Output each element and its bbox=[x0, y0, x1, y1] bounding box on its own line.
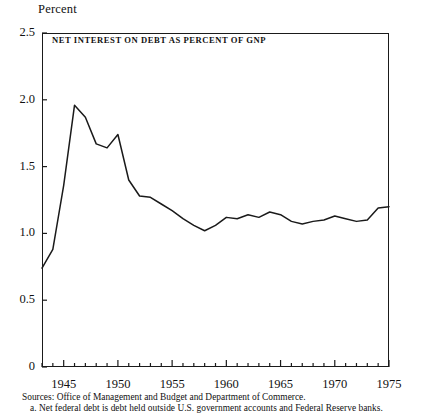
y-axis-tick-label: 1.5 bbox=[5, 159, 35, 174]
data-series-line bbox=[42, 105, 389, 268]
y-axis-tick-marks bbox=[42, 33, 47, 367]
x-axis-tick-marks bbox=[42, 360, 389, 367]
y-axis-tick-label: 2.0 bbox=[5, 92, 35, 107]
y-axis-tick-label: 0.5 bbox=[5, 292, 35, 307]
footnote-line: a. Net federal debt is debt held outside… bbox=[0, 403, 428, 414]
figure-net-interest-on-debt: Percent NET INTEREST ON DEBT AS PERCENT … bbox=[0, 0, 428, 414]
x-axis-tick-label: 1960 bbox=[206, 377, 246, 392]
y-axis-tick-label: 1.0 bbox=[5, 225, 35, 240]
x-axis-tick-label: 1950 bbox=[98, 377, 138, 392]
x-axis-tick-label: 1965 bbox=[261, 377, 301, 392]
y-axis-tick-label: 0 bbox=[5, 359, 35, 374]
chart-canvas bbox=[0, 0, 428, 414]
source-line: Sources: Office of Management and Budget… bbox=[0, 392, 428, 403]
x-axis-tick-label: 1955 bbox=[152, 377, 192, 392]
x-axis-tick-label: 1945 bbox=[44, 377, 84, 392]
x-axis-tick-label: 1975 bbox=[369, 377, 409, 392]
figure-notes: Sources: Office of Management and Budget… bbox=[0, 392, 428, 414]
y-axis-tick-label: 2.5 bbox=[5, 25, 35, 40]
x-axis-tick-label: 1970 bbox=[315, 377, 355, 392]
